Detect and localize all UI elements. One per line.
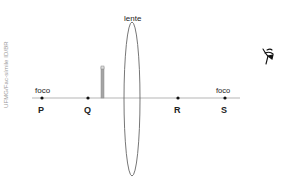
focus-left-label: foco [35,86,51,95]
point-p-dot [40,96,43,99]
object-rod-cap [101,66,104,69]
eye-icon [263,49,273,64]
optics-diagram: lente foco foco P Q R S [0,0,291,184]
point-r-dot [176,96,179,99]
lens-label: lente [124,14,142,23]
point-p-label: P [38,105,44,115]
point-r-label: R [174,105,181,115]
point-q-dot [86,96,89,99]
focus-right-label: foco [216,86,230,95]
point-s-label: S [221,105,227,115]
point-q-label: Q [84,105,91,115]
point-s-dot [223,96,226,99]
converging-lens [124,22,140,176]
object-rod [101,67,104,98]
